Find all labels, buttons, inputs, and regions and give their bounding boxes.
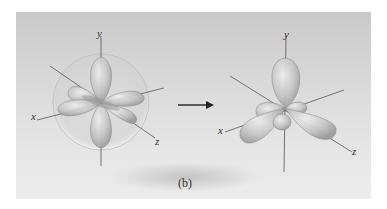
right-arrow-icon bbox=[178, 101, 214, 109]
figure-caption: (b) bbox=[178, 176, 192, 191]
right-orbital-diagram bbox=[225, 36, 352, 172]
left-y-axis-label: y bbox=[97, 27, 102, 39]
orbital-diagrams bbox=[0, 0, 387, 209]
left-z-axis-label: z bbox=[155, 135, 159, 147]
hybrid-lobe-up bbox=[272, 58, 300, 108]
hybrid-lobe-lower bbox=[273, 114, 291, 130]
hybrid-lobe-right bbox=[285, 108, 336, 139]
right-x-axis-label: x bbox=[218, 124, 223, 136]
right-z-axis-label: z bbox=[352, 145, 356, 157]
right-y-axis-label: y bbox=[284, 28, 289, 40]
left-x-axis-label: x bbox=[31, 110, 36, 122]
left-orbital-diagram bbox=[37, 36, 164, 166]
